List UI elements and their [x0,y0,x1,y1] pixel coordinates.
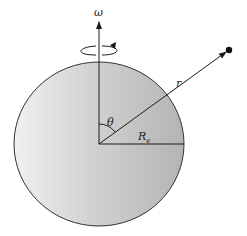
omega-label: ω [94,6,103,19]
field-point [226,47,232,53]
r-label: r [176,77,182,90]
theta-label: θ [107,116,114,129]
radius-label-main: R [137,130,146,143]
rotating-sphere-diagram: ω r θ Re [0,0,247,236]
radius-label-sub: e [146,137,150,145]
